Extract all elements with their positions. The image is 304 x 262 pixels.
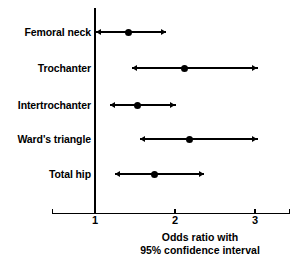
row-label-femoral-neck: Femoral neck <box>25 26 92 38</box>
ci-line <box>140 138 258 139</box>
x-axis-caption-line1: Odds ratio with <box>140 231 260 244</box>
point-estimate <box>134 102 141 109</box>
ci-line <box>115 173 204 174</box>
ci-cap-upper <box>161 29 166 35</box>
ci-line <box>110 104 176 105</box>
x-tick-label-2: 2 <box>172 214 178 226</box>
row-label-wards-triangle: Ward's triangle <box>17 133 91 145</box>
ci-cap-upper <box>252 136 257 142</box>
ci-line <box>132 67 258 68</box>
ci-cap-upper <box>199 171 204 177</box>
ci-cap-lower <box>110 102 115 108</box>
x-axis-caption: Odds ratio with 95% confidence interval <box>140 231 260 257</box>
point-estimate <box>186 136 193 143</box>
ci-cap-lower <box>132 65 137 71</box>
point-estimate <box>151 171 158 178</box>
x-tick-label-1: 1 <box>92 214 98 226</box>
row-label-total-hip: Total hip <box>49 168 91 180</box>
ci-cap-lower <box>115 171 120 177</box>
point-estimate <box>125 29 132 36</box>
x-axis-left-endcap <box>52 209 53 214</box>
row-label-trochanter: Trochanter <box>38 62 91 74</box>
ci-cap-lower <box>140 136 145 142</box>
row-label-intertrochanter: Intertrochanter <box>18 99 91 111</box>
point-estimate <box>181 65 188 72</box>
forest-plot: 1 2 3 Femoral neck Trochanter Intertroch… <box>0 0 304 262</box>
x-tick-label-3: 3 <box>252 214 258 226</box>
ci-cap-upper <box>252 65 257 71</box>
ci-cap-lower <box>96 29 101 35</box>
reference-line-at-1 <box>94 8 95 214</box>
ci-cap-upper <box>170 102 175 108</box>
x-axis-right-endcap <box>289 209 290 214</box>
x-axis-caption-line2: 95% confidence interval <box>140 244 260 257</box>
